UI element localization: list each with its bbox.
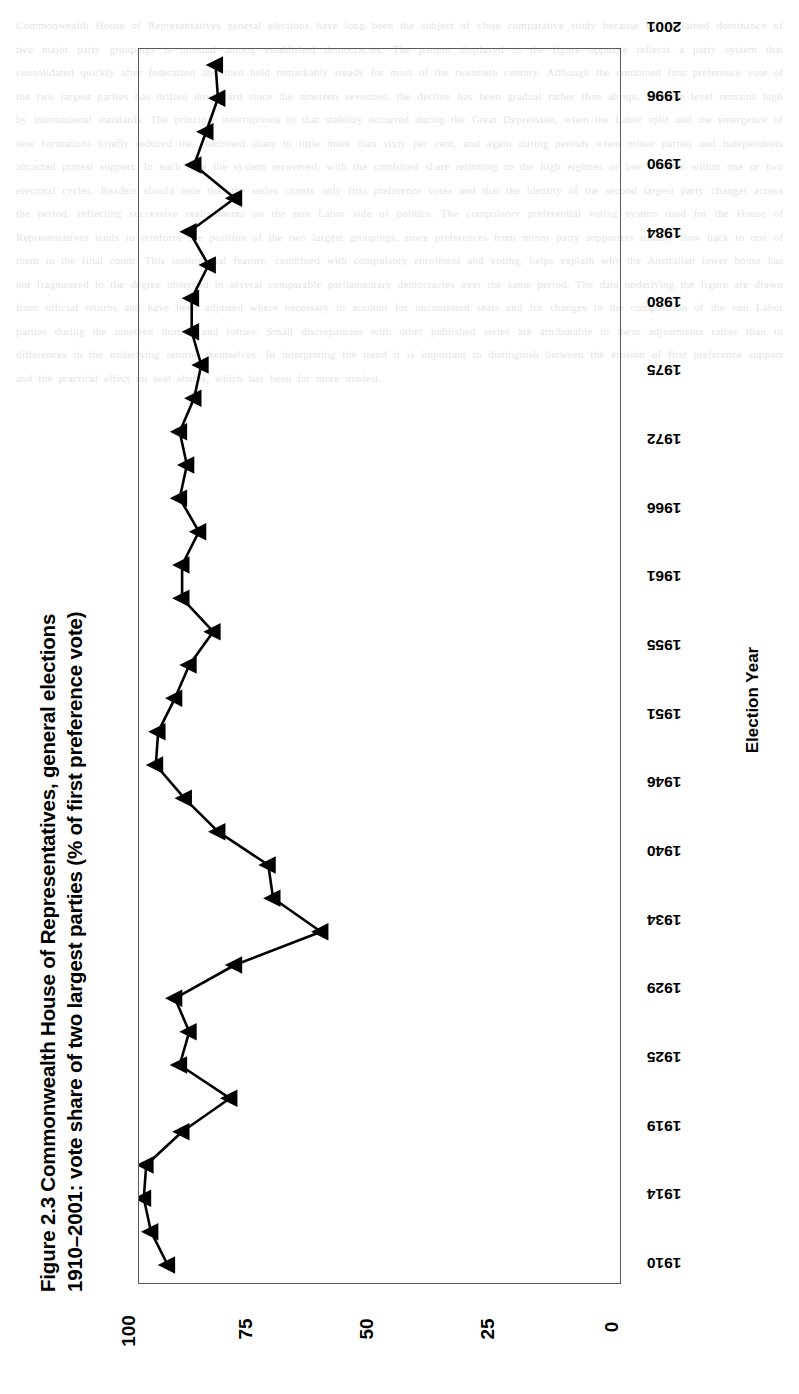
data-series-line (139, 49, 618, 1281)
data-point-1929 (165, 990, 182, 1007)
year-tick-1984: 1984 (638, 224, 690, 242)
year-tick-1961: 1961 (638, 567, 690, 585)
figure-title-line2: 1910–2001: vote share of two largest par… (63, 612, 86, 1292)
data-point-1966 (189, 523, 206, 540)
data-point-1949 (146, 756, 163, 773)
data-point-1910 (158, 1256, 175, 1273)
year-tick-2001: 2001 (638, 18, 690, 36)
data-point-1946 (175, 790, 192, 807)
plot-area (138, 48, 621, 1284)
year-tick-1910: 1910 (638, 1254, 690, 1272)
data-point-1987 (179, 223, 196, 240)
value-tick-50: 50 (356, 1318, 378, 1339)
year-tick-1940: 1940 (638, 842, 690, 860)
figure-container: Figure 2.3 Commonwealth House of Represe… (0, 0, 799, 1394)
data-point-2001 (206, 56, 223, 73)
year-tick-1955: 1955 (638, 636, 690, 654)
data-point-1993 (184, 156, 201, 173)
data-point-1969 (170, 490, 187, 507)
year-tick-1946: 1946 (638, 773, 690, 791)
value-tick-100: 100 (118, 1315, 140, 1347)
year-tick-1925: 1925 (638, 1048, 690, 1066)
x-axis-title: Election Year (743, 647, 763, 753)
year-tick-1919: 1919 (638, 1117, 690, 1135)
value-tick-75: 75 (235, 1318, 257, 1339)
data-point-1954 (165, 690, 182, 707)
year-tick-1972: 1972 (638, 430, 690, 448)
year-tick-1934: 1934 (638, 911, 690, 929)
data-point-1931 (225, 956, 242, 973)
year-tick-1975: 1975 (638, 361, 690, 379)
figure-title-line1: Figure 2.3 Commonwealth House of Represe… (36, 614, 59, 1292)
year-tick-1929: 1929 (638, 979, 690, 997)
year-tick-1980: 1980 (638, 293, 690, 311)
data-point-1974 (170, 423, 187, 440)
year-tick-1951: 1951 (638, 705, 690, 723)
data-point-1984 (198, 256, 215, 273)
year-tick-1996: 1996 (638, 87, 690, 105)
data-point-1925 (170, 1056, 187, 1073)
year-tick-1914: 1914 (638, 1185, 690, 1203)
value-tick-25: 25 (477, 1318, 499, 1339)
figure-title: Figure 2.3 Commonwealth House of Represe… (34, 42, 88, 1292)
year-tick-1990: 1990 (638, 155, 690, 173)
value-tick-0: 0 (601, 1322, 623, 1333)
year-tick-1966: 1966 (638, 499, 690, 517)
